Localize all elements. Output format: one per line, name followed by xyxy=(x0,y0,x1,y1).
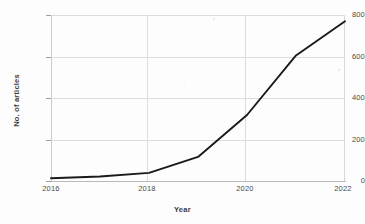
series-line-no-of-articles xyxy=(51,21,345,178)
line-chart-figure: 800 600 400 200 0 2016 2018 2020 2022 Ye… xyxy=(0,0,365,224)
series-layer xyxy=(0,0,365,224)
